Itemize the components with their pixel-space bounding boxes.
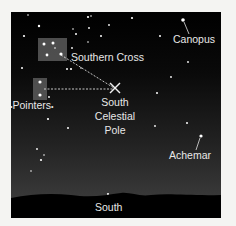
star-chart: Southern Cross Canopus •Pointers• South … (11, 12, 221, 218)
achemar-label: Achemar (169, 150, 211, 161)
south-celestial-pole-label: South Celestial Pole (89, 97, 141, 136)
southern-cross-highlight-box (38, 38, 67, 61)
canopus-star (181, 18, 185, 22)
canopus-label: Canopus (173, 34, 215, 45)
horizon-south-label: South (95, 202, 122, 213)
pointers-label: •Pointers• (11, 100, 53, 112)
scp-label-line1: South (89, 97, 141, 108)
south-celestial-pole-x-icon (110, 83, 120, 93)
pointers-right-dot: • (51, 103, 53, 110)
southern-cross-label: Southern Cross (71, 52, 144, 63)
scp-label-line3: Pole (89, 125, 141, 136)
pointers-label-text: Pointers (12, 99, 51, 111)
achemar-star (199, 134, 202, 137)
scp-label-line2: Celestial (89, 111, 141, 122)
